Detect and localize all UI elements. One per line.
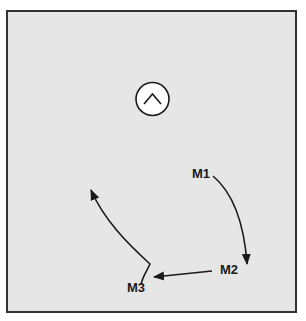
diagram-canvas <box>0 0 306 321</box>
marker-label-m1: M1 <box>192 167 210 180</box>
marker-label-m3: M3 <box>127 281 145 294</box>
arrow-m3-onward <box>91 190 150 285</box>
marker-label-m2: M2 <box>220 263 238 276</box>
arrow-m1-to-m2 <box>213 176 247 264</box>
arrow-m2-to-m3 <box>154 271 212 277</box>
chevron-up-in-circle-icon <box>136 83 169 116</box>
